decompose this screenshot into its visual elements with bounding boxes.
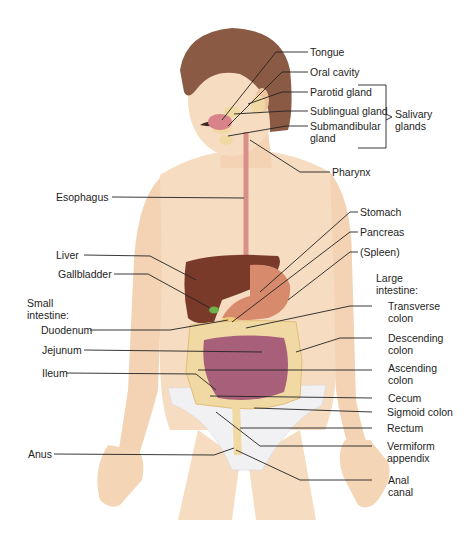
label-anal-canal: Anal canal xyxy=(388,474,413,498)
label-oral-cavity: Oral cavity xyxy=(310,66,360,78)
label-rectum: Rectum xyxy=(387,422,423,434)
label-anus: Anus xyxy=(28,448,52,460)
label-pharynx: Pharynx xyxy=(332,166,371,178)
label-stomach: Stomach xyxy=(360,206,401,218)
label-jejunum: Jejunum xyxy=(42,344,82,356)
label-parotid-gland: Parotid gland xyxy=(310,86,372,98)
label-transverse-colon: Transverse colon xyxy=(388,300,440,324)
label-vermiform-appendix: Vermiform appendix xyxy=(387,440,435,464)
label-tongue: Tongue xyxy=(310,46,344,58)
label-ileum: Ileum xyxy=(42,367,68,379)
label-spleen: (Spleen) xyxy=(360,246,400,258)
label-salivary-glands: Salivary glands xyxy=(395,108,432,132)
label-gallbladder: Gallbladder xyxy=(58,268,112,280)
label-large-intestine-heading: Large intestine: xyxy=(376,272,418,296)
label-ascending-colon: Ascending colon xyxy=(388,362,437,386)
label-submandibular-gland: Submandibular gland xyxy=(310,120,381,144)
label-pancreas: Pancreas xyxy=(360,226,404,238)
label-duodenum: Duodenum xyxy=(41,324,92,336)
label-sigmoid-colon: Sigmoid colon xyxy=(387,406,453,418)
label-liver: Liver xyxy=(56,249,79,261)
label-descending-colon: Descending colon xyxy=(388,332,443,356)
label-cecum: Cecum xyxy=(388,392,421,404)
label-esophagus: Esophagus xyxy=(56,191,109,203)
label-sublingual-gland: Sublingual gland xyxy=(310,105,388,117)
label-small-intestine-heading: Small intestine: xyxy=(27,297,69,321)
